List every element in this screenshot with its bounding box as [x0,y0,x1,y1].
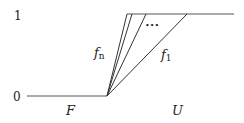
y-label-zero: 0 [13,91,21,103]
curve-fn [107,14,127,96]
region-label-f: F [66,104,75,117]
diagram-canvas [0,0,244,123]
region-label-u: U [172,104,183,117]
curve-label-fn-sub: n [99,51,105,61]
curve-label-f1-sub: 1 [166,53,172,63]
ellipsis-dots: ••• [145,22,159,30]
y-label-one: 1 [14,10,22,22]
curve-f2 [107,14,146,96]
curve-label-fn: fn [94,46,105,61]
curve-label-f1: f1 [161,48,172,63]
